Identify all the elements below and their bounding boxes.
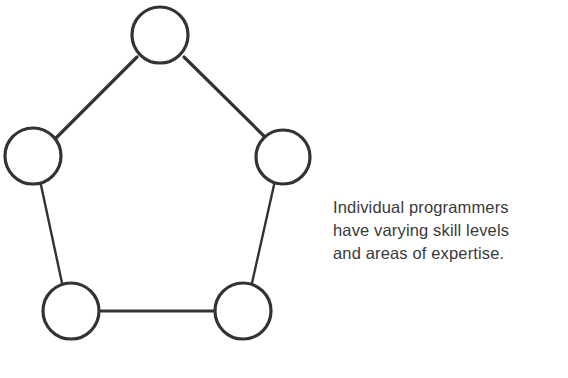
edge-lower-left-to-upper-left xyxy=(41,185,62,283)
node-upper-right xyxy=(256,130,310,184)
diagram-edges xyxy=(41,57,274,311)
figure-caption: Individual programmers have varying skil… xyxy=(333,196,563,265)
caption-line-2: have varying skill levels xyxy=(333,219,563,242)
figure-root: Individual programmers have varying skil… xyxy=(0,0,568,378)
node-upper-left xyxy=(5,128,61,184)
node-lower-left xyxy=(43,283,99,339)
node-lower-right xyxy=(215,283,271,339)
pentagon-node-link-diagram xyxy=(0,0,330,378)
edge-top-to-upper-right xyxy=(184,57,265,137)
edge-upper-right-to-lower-right xyxy=(252,185,274,283)
node-top xyxy=(132,7,188,63)
edge-upper-left-to-top xyxy=(56,57,137,138)
caption-line-1: Individual programmers xyxy=(333,196,563,219)
diagram-nodes xyxy=(5,7,310,339)
caption-line-3: and areas of expertise. xyxy=(333,242,563,265)
